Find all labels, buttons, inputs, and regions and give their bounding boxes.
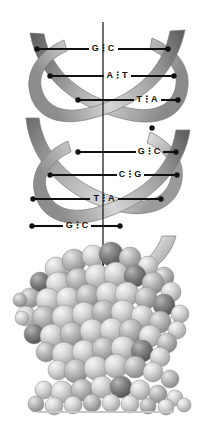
strand-dot xyxy=(34,46,39,51)
strand-dot xyxy=(117,223,122,228)
base-pair-label: C⋮G xyxy=(119,169,142,179)
base-pair-label: G⋮C xyxy=(92,43,115,53)
strand-dot xyxy=(171,73,176,78)
strand-dot xyxy=(30,196,35,201)
model-baseline xyxy=(38,411,174,413)
strand-dot xyxy=(47,73,52,78)
strand-dot xyxy=(47,172,52,177)
strand-dot xyxy=(174,172,179,177)
base-pair-label: A⋮T xyxy=(107,70,128,80)
strand-dot xyxy=(158,196,163,201)
strand-dot xyxy=(29,223,34,228)
base-pair-label: G⋮C xyxy=(66,220,89,230)
strand-dot xyxy=(149,125,154,130)
strand-dot xyxy=(165,46,170,51)
base-pair-label: T⋮A xyxy=(137,94,158,104)
dna-illustration-svg: G⋮C A⋮T T⋮A xyxy=(0,0,211,427)
strand-dot xyxy=(75,97,80,102)
strand-dot xyxy=(75,149,80,154)
dna-figure: G⋮C A⋮T T⋮A xyxy=(0,0,211,427)
base-pair-label: G⋮C xyxy=(138,146,161,156)
base-pair-label: T⋮A xyxy=(94,193,115,203)
strand-dot xyxy=(173,149,178,154)
strand-dot xyxy=(175,97,180,102)
